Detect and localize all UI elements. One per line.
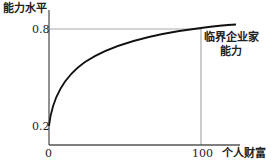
annotation-line-1: 临界企业家 xyxy=(204,32,259,44)
y-tick-0-8: 0.8 xyxy=(32,24,50,36)
x-tick-100: 100 xyxy=(192,148,213,160)
x-tick-0: 0 xyxy=(45,148,52,160)
y-axis-title: 能力水平 xyxy=(3,3,47,15)
annotation-line-2: 能力 xyxy=(220,46,242,58)
x-axis-title: 个人财富 xyxy=(222,148,266,160)
y-tick-0-2: 0.2 xyxy=(32,121,50,133)
